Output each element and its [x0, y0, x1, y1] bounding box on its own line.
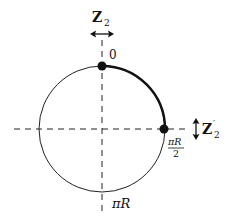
orbifold-diagram: Z 2 0 πR 2 Z ′ 2 πR	[0, 0, 231, 224]
vertical-double-arrow-icon	[193, 118, 200, 140]
horizontal-double-arrow-icon	[90, 31, 114, 38]
svg-text:′: ′	[213, 119, 215, 129]
zero-label: 0	[109, 48, 117, 62]
svg-text:2: 2	[104, 18, 110, 28]
fixed-point-0-dot	[98, 62, 107, 71]
pi-r-half-label: πR 2	[167, 136, 184, 159]
svg-text:2: 2	[173, 148, 179, 159]
z2-label: Z 2	[92, 9, 110, 28]
fixed-point-pi-r-half-dot	[160, 125, 169, 134]
z2-prime-label: Z ′ 2	[202, 119, 220, 140]
svg-text:2: 2	[214, 130, 220, 140]
svg-text:πR: πR	[167, 136, 181, 147]
pi-r-label: πR	[111, 196, 131, 211]
svg-text:Z: Z	[92, 9, 102, 25]
svg-text:Z: Z	[202, 121, 212, 137]
highlighted-arc	[102, 66, 165, 129]
